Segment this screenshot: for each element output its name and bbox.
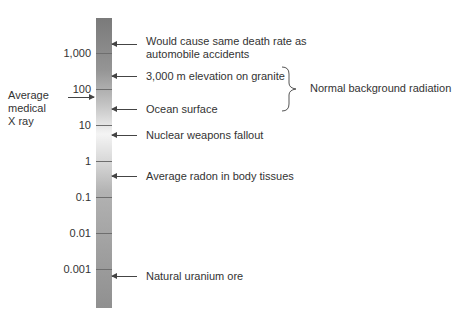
arrow-left-icon	[112, 176, 137, 177]
annotation-granite: 3,000 m elevation on granite	[146, 70, 285, 83]
label-line: Average	[8, 89, 49, 102]
tick-label: 0.01	[70, 227, 91, 239]
label-line: X ray	[8, 115, 49, 128]
arrow-left-icon	[112, 135, 137, 136]
annotation-fallout: Nuclear weapons fallout	[146, 129, 263, 142]
radiation-scale-bar	[96, 18, 112, 308]
arrow-left-icon	[112, 109, 137, 110]
tick-label: 1,000	[63, 47, 91, 59]
tick-1000	[96, 53, 112, 54]
medical-xray-label: Average medical X ray	[8, 89, 49, 128]
tick-0.001	[96, 269, 112, 270]
curly-brace-icon	[280, 66, 304, 112]
tick-label: 1	[85, 155, 91, 167]
tick-0.01	[96, 233, 112, 234]
tick-label: 0.1	[76, 191, 91, 203]
annotation-line: Would cause same death rate as	[146, 35, 307, 48]
tick-label: 10	[79, 119, 91, 131]
tick-label: 0.001	[63, 263, 91, 275]
tick-100	[96, 89, 112, 90]
annotation-radon: Average radon in body tissues	[146, 170, 294, 183]
tick-10	[96, 125, 112, 126]
arrow-left-icon	[112, 44, 137, 45]
annotation-uranium: Natural uranium ore	[146, 270, 243, 283]
label-line: medical	[8, 102, 49, 115]
arrow-left-icon	[112, 276, 137, 277]
arrow-right-icon	[68, 97, 94, 98]
tick-1	[96, 161, 112, 162]
normal-background-label: Normal background radiation	[310, 82, 451, 94]
annotation-automobile: Would cause same death rate as automobil…	[146, 35, 307, 61]
annotation-line: automobile accidents	[146, 48, 307, 61]
tick-0.1	[96, 197, 112, 198]
arrow-left-icon	[112, 76, 137, 77]
annotation-ocean: Ocean surface	[146, 103, 218, 116]
